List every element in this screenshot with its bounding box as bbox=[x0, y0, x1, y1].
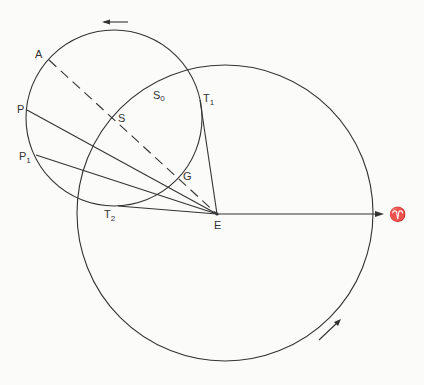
label-S: S bbox=[118, 112, 125, 124]
label-T1: T1 bbox=[203, 92, 215, 107]
line-P-E bbox=[27, 110, 217, 214]
line-T2-E bbox=[118, 206, 217, 214]
label-P: P bbox=[17, 103, 24, 115]
point-E bbox=[215, 212, 218, 215]
diagram-canvas: A P P1 S S0 T1 T2 G E ♈ bbox=[0, 0, 424, 385]
aries-arrowhead bbox=[375, 211, 384, 217]
label-T2: T2 bbox=[104, 208, 116, 223]
epicycle-circle bbox=[26, 30, 202, 206]
dashed-line-A-E bbox=[49, 60, 217, 214]
label-S0: S0 bbox=[153, 89, 165, 103]
label-G: G bbox=[183, 170, 192, 182]
label-A: A bbox=[35, 48, 43, 60]
aries-icon: ♈ bbox=[389, 206, 406, 223]
line-T1-E bbox=[200, 100, 217, 214]
top-arrowhead-icon bbox=[102, 20, 110, 25]
label-E: E bbox=[214, 219, 221, 231]
diagram-svg: A P P1 S S0 T1 T2 G E ♈ bbox=[0, 0, 424, 385]
deferent-circle bbox=[77, 65, 373, 361]
label-P1: P1 bbox=[19, 150, 31, 165]
